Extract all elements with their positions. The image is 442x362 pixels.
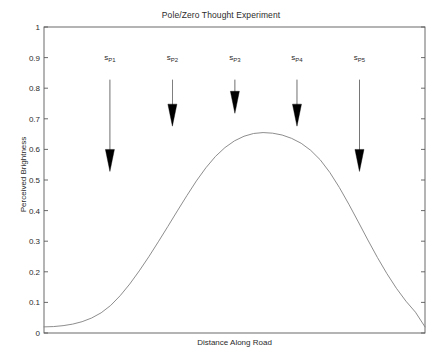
pole-arrow-head-5: [355, 149, 364, 171]
pole-arrow-head-1: [105, 149, 114, 171]
y-tick-label: 0.2: [29, 267, 40, 276]
pole-label-subscript-2: P2: [171, 57, 178, 63]
x-axis-title: Distance Along Road: [44, 338, 425, 347]
pole-label-subscript-5: P5: [358, 57, 365, 63]
chart-plot-svg: [0, 0, 442, 362]
y-tick-label: 1: [36, 23, 40, 32]
y-tick-label: 0: [36, 329, 40, 338]
pole-label-5: sP5: [354, 54, 365, 62]
pole-arrow-head-3: [230, 91, 239, 113]
y-tick-label: 0.8: [29, 84, 40, 93]
y-tick-label: 0.6: [29, 145, 40, 154]
pole-label-3: sP3: [229, 54, 240, 62]
y-tick-label: 0.1: [29, 298, 40, 307]
pole-label-subscript-1: P1: [108, 57, 115, 63]
y-tick-label: 0.9: [29, 53, 40, 62]
pole-label-subscript-3: P3: [233, 57, 240, 63]
brightness-curve: [44, 133, 425, 327]
y-tick-label: 0.3: [29, 237, 40, 246]
pole-label-2: sP2: [167, 54, 178, 62]
pole-label-1: sP1: [104, 54, 115, 62]
pole-arrow-head-2: [168, 104, 177, 126]
y-tick-label: 0.5: [29, 176, 40, 185]
plot-axes: [44, 27, 425, 333]
pole-label-4: sP4: [291, 54, 302, 62]
chart-figure: Pole/Zero Thought Experiment 00.10.20.30…: [0, 0, 442, 362]
y-axis-title: Perceived Brightness: [19, 105, 28, 245]
pole-arrow-head-4: [292, 104, 301, 126]
y-tick-label: 0.7: [29, 114, 40, 123]
y-tick-label: 0.4: [29, 206, 40, 215]
pole-label-subscript-4: P4: [295, 57, 302, 63]
pole-arrows: [105, 80, 364, 172]
